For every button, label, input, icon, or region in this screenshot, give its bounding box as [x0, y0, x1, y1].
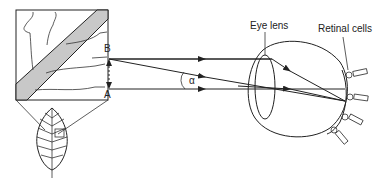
angle-arc [181, 72, 185, 89]
angle-alpha-label: α [189, 75, 195, 86]
light-rays [109, 59, 345, 101]
visual-angle-diagram: B A α Eye lens Retinal cells [0, 0, 383, 184]
retinal-cells [331, 69, 368, 145]
leaf-icon [37, 108, 67, 178]
point-b-label: B [104, 43, 111, 54]
retinal-cells-label: Retinal cells [318, 23, 372, 34]
magnified-leaf-panel [16, 10, 108, 100]
object-size-arrow [106, 59, 112, 89]
main-vein-band [16, 10, 108, 100]
eye-lens-label: Eye lens [250, 20, 288, 31]
point-a-label: A [104, 89, 111, 100]
